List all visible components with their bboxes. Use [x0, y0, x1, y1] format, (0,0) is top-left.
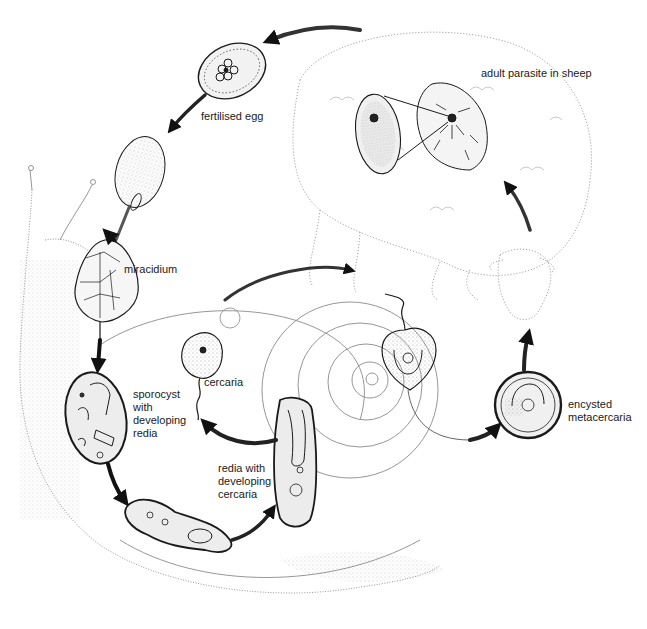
- arrow-adult-to-egg: [270, 27, 360, 40]
- arrow-within-sheep: [508, 186, 530, 230]
- arrow-redia-to-redia-cercaria: [232, 510, 272, 540]
- life-cycle-diagram: adult parasite in sheep fertilised egg m…: [0, 0, 647, 629]
- arrow-cyst-to-sheep: [524, 336, 528, 370]
- free-swimming-cercaria: [382, 294, 470, 440]
- label-miracidium: miracidium: [124, 263, 177, 276]
- label-adult-parasite: adult parasite in sheep: [481, 67, 592, 80]
- encysted-metacercaria: [495, 372, 561, 438]
- redia-larva: [125, 500, 231, 552]
- arrow-snail-to-water: [225, 267, 350, 300]
- diagram-artwork: [0, 0, 647, 629]
- shell-shadow-stipple: [280, 552, 445, 582]
- miracidium: [75, 240, 138, 350]
- arrow-miracidium-to-sporocyst: [98, 340, 100, 366]
- arrow-sporocyst-to-redia: [108, 464, 124, 500]
- arrow-hatch-to-miracidium: [108, 234, 114, 240]
- adult-fluke: [417, 83, 487, 170]
- label-cercaria: cercaria: [204, 376, 243, 389]
- label-fertilised-egg: fertilised egg: [201, 110, 263, 123]
- redia-with-cercaria: [274, 398, 316, 527]
- cercaria-in-snail: [182, 308, 240, 420]
- hatching-egg: [108, 131, 173, 250]
- label-sporocyst: sporocyst with developing redia: [133, 388, 186, 440]
- arrow-redia-to-cercaria: [206, 424, 276, 443]
- arrow-cercaria-to-cyst: [470, 428, 496, 440]
- label-redia: redia with developing cercaria: [218, 462, 271, 501]
- label-metacercaria: encysted metacercaria: [568, 398, 632, 424]
